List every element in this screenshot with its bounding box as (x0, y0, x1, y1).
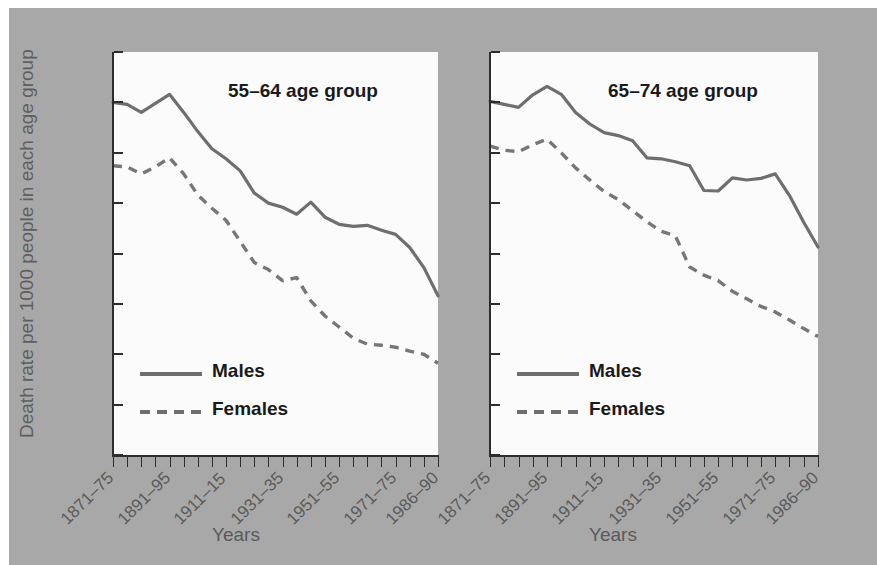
y-tick (491, 152, 500, 154)
y-axis-line (489, 52, 491, 457)
x-tick (533, 457, 534, 467)
y-tick (491, 253, 500, 255)
x-axis-line (489, 455, 819, 457)
legend-label-females-right: Females (589, 398, 665, 420)
x-tick (647, 457, 648, 467)
x-tick (590, 457, 591, 467)
x-tick (576, 457, 577, 467)
x-tick (604, 457, 605, 467)
legend-swatch-females-right (517, 410, 579, 414)
series-svg-right (0, 0, 877, 565)
x-tick (747, 457, 748, 467)
x-tick (633, 457, 634, 467)
series-line-males-right (490, 86, 818, 247)
y-tick (491, 353, 500, 355)
x-tick (761, 457, 762, 467)
y-tick (491, 454, 500, 456)
x-tick (732, 457, 733, 467)
x-tick (561, 457, 562, 467)
legend-label-males-right: Males (589, 360, 642, 382)
legend-swatch-males-right (517, 372, 579, 376)
x-tick (818, 457, 819, 467)
x-tick (490, 457, 491, 467)
x-tick (789, 457, 790, 467)
x-tick (547, 457, 548, 467)
x-axis-title-right: Years (589, 524, 637, 546)
y-tick (491, 101, 500, 103)
x-tick (718, 457, 719, 467)
y-tick (491, 404, 500, 406)
x-tick (519, 457, 520, 467)
x-tick (704, 457, 705, 467)
series-line-females-right (490, 139, 818, 337)
x-tick (618, 457, 619, 467)
y-tick (491, 303, 500, 305)
x-tick (775, 457, 776, 467)
x-tick (675, 457, 676, 467)
y-tick (491, 51, 500, 53)
x-tick (690, 457, 691, 467)
figure-root: Death rate per 1000 people in each age g… (0, 0, 877, 565)
x-tick (804, 457, 805, 467)
x-tick (661, 457, 662, 467)
y-tick (491, 202, 500, 204)
x-tick (504, 457, 505, 467)
